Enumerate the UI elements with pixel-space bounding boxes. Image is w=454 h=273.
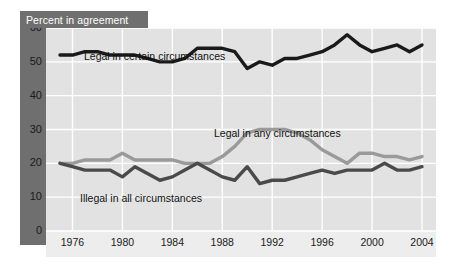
chart-figure: Percent in agreement 0102030405060 19761… <box>0 0 454 273</box>
x-axis-tick-label: 2000 <box>351 236 393 248</box>
y-axis-tick-label: 10 <box>18 190 42 202</box>
x-axis-tick-label: 1976 <box>51 236 93 248</box>
x-axis-tick-label: 1996 <box>301 236 343 248</box>
x-axis-tick-label: 1988 <box>201 236 243 248</box>
y-axis-tick-label: 40 <box>18 89 42 101</box>
y-axis-tick-label: 50 <box>18 55 42 67</box>
chart-title-banner: Percent in agreement <box>20 11 148 28</box>
y-axis-tick-label: 20 <box>18 156 42 168</box>
data-line <box>60 163 422 183</box>
y-axis-tick-label: 30 <box>18 123 42 135</box>
y-axis-tick-label: 0 <box>18 224 42 236</box>
x-axis-tick-label: 1984 <box>151 236 193 248</box>
series-label-legal-certain: Legal in certain circumstances <box>84 50 225 62</box>
series-label-illegal-all: Illegal in all circumstances <box>80 192 202 204</box>
x-axis-tick-label: 2004 <box>401 236 443 248</box>
page-title: Percent in agreement <box>26 14 128 26</box>
x-axis-tick-label: 1992 <box>251 236 293 248</box>
x-axis-tick-label: 1980 <box>101 236 143 248</box>
series-label-legal-any: Legal in any circumstances <box>214 127 341 139</box>
